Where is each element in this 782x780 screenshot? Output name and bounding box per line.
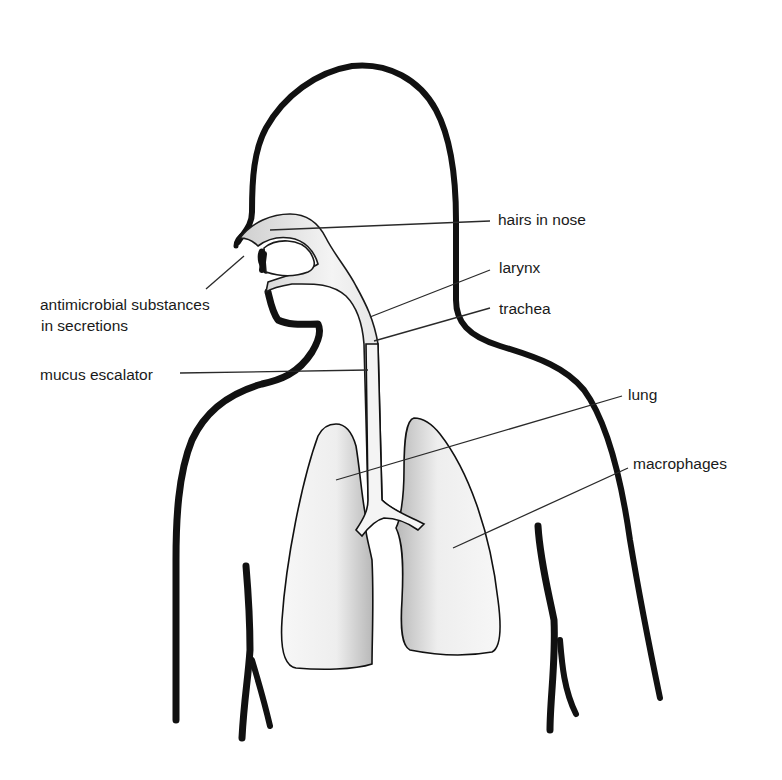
label-macrophages: macrophages <box>633 455 727 473</box>
label-larynx: larynx <box>499 259 540 277</box>
right-arm-outline <box>538 526 554 730</box>
label-lung: lung <box>628 386 657 404</box>
label-hairs-in-nose: hairs in nose <box>498 211 586 229</box>
palate-mark <box>262 254 264 270</box>
label-mucus-escalator: mucus escalator <box>40 366 153 384</box>
label-antimicrobial-line2: in secretions <box>41 317 128 335</box>
left-lung <box>282 424 373 669</box>
left-arm-outline <box>242 566 250 738</box>
respiratory-diagram <box>0 0 782 780</box>
right-lung <box>396 418 500 655</box>
left-arm-fork <box>252 660 270 726</box>
label-antimicrobial-line1: antimicrobial substances <box>40 296 210 314</box>
leader-mucus-escalator <box>180 370 368 373</box>
label-trachea: trachea <box>499 300 551 318</box>
leader-antimicrobial <box>206 256 244 289</box>
leader-larynx <box>370 270 490 317</box>
right-arm-fork <box>560 640 576 714</box>
